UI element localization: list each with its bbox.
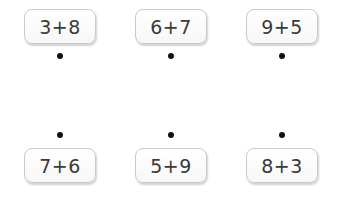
expression-card-bottom-1[interactable]: 7+6 (24, 148, 96, 183)
connect-dot-bottom-3[interactable] (279, 132, 285, 138)
connect-dot-bottom-2[interactable] (168, 132, 174, 138)
connect-dot-top-3[interactable] (279, 53, 285, 59)
connect-dot-top-1[interactable] (57, 53, 63, 59)
expression-card-top-3[interactable]: 9+5 (246, 9, 318, 44)
expression-card-bottom-3[interactable]: 8+3 (246, 148, 318, 183)
expression-card-top-2[interactable]: 6+7 (135, 9, 207, 44)
connect-dot-bottom-1[interactable] (57, 132, 63, 138)
expression-card-top-1[interactable]: 3+8 (24, 9, 96, 44)
connect-dot-top-2[interactable] (168, 53, 174, 59)
expression-card-bottom-2[interactable]: 5+9 (135, 148, 207, 183)
